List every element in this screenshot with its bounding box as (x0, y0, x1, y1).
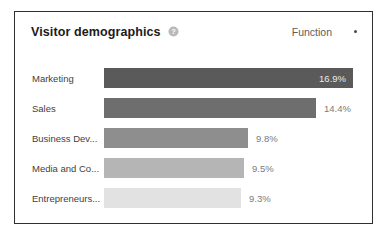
bar-row[interactable]: Business Dev...9.8% (15, 123, 372, 153)
bar[interactable]: 16.9% (104, 68, 353, 88)
bar-row[interactable]: Media and Co...9.5% (15, 153, 372, 183)
visitor-demographics-card: Visitor demographics ? Function Marketin… (14, 11, 373, 224)
help-circle-icon[interactable]: ? (168, 26, 179, 37)
bar-category-label: Media and Co... (32, 163, 110, 174)
bar-value-label: 9.3% (241, 193, 271, 204)
bar-row[interactable]: Entrepreneurs...9.3% (15, 183, 372, 213)
bar[interactable] (104, 98, 316, 118)
bar[interactable] (104, 158, 244, 178)
bar-value-label: 16.9% (319, 73, 353, 84)
bar-track: 9.3% (104, 188, 364, 208)
page-title: Visitor demographics (31, 25, 161, 39)
bar-track: 16.9% (104, 68, 364, 88)
bar-chart: Marketing16.9%Sales14.4%Business Dev...9… (15, 51, 372, 223)
bar-track: 9.8% (104, 128, 364, 148)
bar[interactable] (104, 188, 241, 208)
bar-row[interactable]: Sales14.4% (15, 93, 372, 123)
bar-track: 9.5% (104, 158, 364, 178)
bar-category-label: Entrepreneurs... (32, 193, 110, 204)
function-dropdown[interactable]: Function (292, 26, 332, 38)
svg-text:?: ? (171, 27, 176, 36)
bar-category-label: Business Dev... (32, 133, 110, 144)
bar-value-label: 14.4% (316, 103, 351, 114)
bar[interactable] (104, 128, 248, 148)
bar-category-label: Sales (32, 103, 110, 114)
bar-value-label: 9.8% (248, 133, 278, 144)
card-header: Visitor demographics ? Function (15, 12, 372, 51)
bar-track: 14.4% (104, 98, 364, 118)
bar-value-label: 9.5% (244, 163, 274, 174)
dropdown-caret-icon[interactable] (351, 27, 360, 36)
bar-category-label: Marketing (32, 73, 110, 84)
bar-row[interactable]: Marketing16.9% (15, 63, 372, 93)
